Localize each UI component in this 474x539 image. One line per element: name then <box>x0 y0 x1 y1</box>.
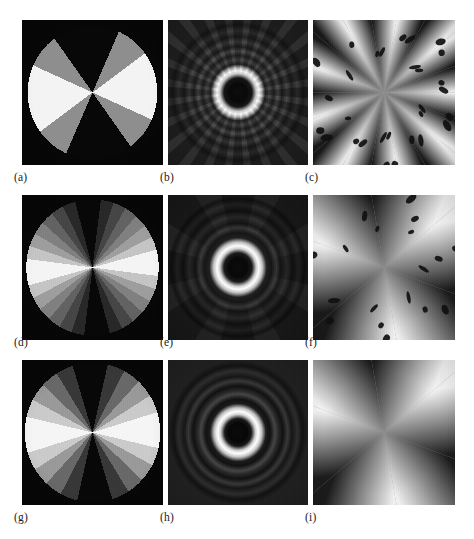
panel-i-image <box>313 360 455 505</box>
figure-grid: (a) <box>0 0 474 539</box>
panel-label-d: (d) <box>14 335 28 349</box>
panel-i <box>313 360 455 505</box>
panel-h-image <box>168 360 308 505</box>
panel-g <box>22 360 163 505</box>
panel-f-image <box>313 195 455 340</box>
panel-label-h: (h) <box>160 510 174 524</box>
panel-c <box>313 20 455 165</box>
panel-e <box>168 195 308 340</box>
panel-label-a: (a) <box>14 170 27 184</box>
panel-e-image <box>168 195 308 340</box>
panel-d-image <box>22 195 163 340</box>
panel-label-g: (g) <box>14 510 28 524</box>
panel-b <box>168 20 308 165</box>
panel-h <box>168 360 308 505</box>
panel-a <box>22 20 163 165</box>
panel-b-image <box>168 20 308 165</box>
panel-label-f: (f) <box>305 335 317 349</box>
panel-label-i: (i) <box>305 510 316 524</box>
panel-f <box>313 195 455 340</box>
panel-label-c: (c) <box>305 170 318 184</box>
panel-g-image <box>22 360 163 505</box>
panel-a-image <box>22 20 163 165</box>
panel-label-b: (b) <box>160 170 174 184</box>
panel-c-image <box>313 20 455 165</box>
panel-d <box>22 195 163 340</box>
panel-label-e: (e) <box>160 335 173 349</box>
